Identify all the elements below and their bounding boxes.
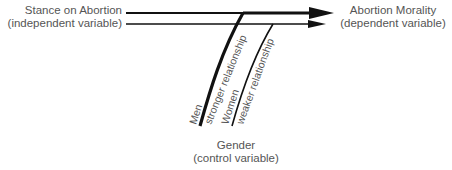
arrowhead-icon [308,20,326,28]
relationship-diagram: Men stronger relationship Women weaker r… [0,0,452,170]
arrowhead-icon [309,7,334,19]
